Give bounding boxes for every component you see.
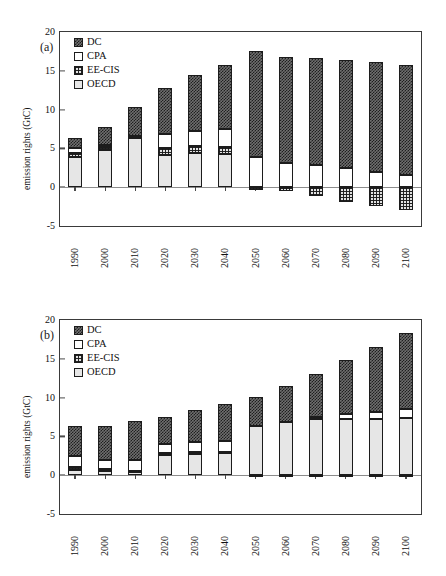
bar-2060	[279, 32, 293, 226]
bar-segment-ee-cis	[339, 475, 353, 477]
bar-segment-ee-cis	[188, 146, 202, 153]
bar-segment-ee-cis	[158, 148, 172, 155]
bar-segment-ee-cis	[249, 187, 263, 189]
bar-segment-ee-cis	[218, 452, 232, 454]
bar-segment-ee-cis	[98, 469, 112, 471]
y-axis-tick-label: 10	[45, 393, 55, 403]
bar-segment-oecd	[218, 453, 232, 475]
bar-segment-cpa	[249, 157, 263, 187]
bar-segment-dc	[399, 333, 413, 409]
bar-segment-dc	[98, 127, 112, 145]
bar-segment-cpa	[399, 175, 413, 187]
zero-baseline	[60, 475, 421, 476]
bar-segment-oecd	[188, 153, 202, 187]
bar-segment-ee-cis	[128, 471, 142, 473]
bar-segment-dc	[339, 60, 353, 168]
bar-segment-dc	[369, 347, 383, 411]
y-axis-tick-mark	[60, 397, 65, 398]
bar-segment-cpa	[399, 409, 413, 418]
bar-segment-ee-cis	[309, 475, 323, 477]
bar-segment-oecd	[98, 150, 112, 187]
bar-segment-dc	[218, 65, 232, 129]
bar-segment-dc	[399, 65, 413, 174]
bar-segment-dc	[339, 360, 353, 414]
bar-segment-oecd	[339, 419, 353, 476]
x-axis-tick-label: 2070	[311, 244, 321, 272]
bar-segment-dc	[98, 426, 112, 460]
x-axis-tick-label: 2080	[341, 244, 351, 272]
y-axis-tick-mark	[60, 70, 65, 71]
bar-segment-ee-cis	[369, 475, 383, 477]
y-axis-tick-mark	[60, 148, 65, 149]
bar-2010	[128, 320, 142, 514]
bar-segment-cpa	[128, 136, 142, 138]
bar-2000	[98, 32, 112, 226]
bar-segment-ee-cis	[68, 153, 82, 157]
panel-b-label: (b)	[40, 328, 54, 343]
bar-segment-ee-cis	[68, 467, 82, 470]
x-axis-tick-label: 2090	[371, 532, 381, 560]
x-axis-tick-label: 2060	[281, 244, 291, 272]
bar-2070	[309, 32, 323, 226]
bar-2090	[369, 32, 383, 226]
panel-a-y-axis-label: emission rights (GtC)	[22, 108, 32, 190]
x-axis-tick-label: 2010	[130, 532, 140, 560]
bar-segment-dc	[309, 374, 323, 417]
y-axis-tick-label: 15	[45, 354, 55, 364]
bar-segment-dc	[158, 88, 172, 134]
y-axis-tick-label: 0	[50, 182, 55, 192]
bar-segment-dc	[369, 62, 383, 171]
bar-segment-ee-cis	[98, 147, 112, 150]
bar-segment-dc	[128, 107, 142, 136]
y-axis-tick-label: 20	[45, 315, 55, 325]
panel-a: (a) emission rights (GtC) DCCPAEE-CISOEC…	[0, 0, 446, 288]
bar-segment-ee-cis	[158, 453, 172, 455]
bar-1990	[68, 32, 82, 226]
bar-segment-dc	[188, 410, 202, 442]
x-axis-tick-label: 2000	[100, 244, 110, 272]
panel-a-plot-area: DCCPAEE-CISOECD 20151050-519902000201020…	[59, 31, 422, 227]
bar-segment-oecd	[128, 138, 142, 187]
bar-segment-cpa	[339, 168, 353, 187]
bar-segment-oecd	[309, 419, 323, 475]
bar-2040	[218, 32, 232, 226]
x-axis-tick-label: 2020	[160, 532, 170, 560]
bar-2030	[188, 320, 202, 514]
bar-segment-cpa	[369, 412, 383, 419]
bar-segment-oecd	[158, 155, 172, 188]
bar-segment-cpa	[309, 417, 323, 419]
bar-segment-cpa	[68, 148, 82, 153]
y-axis-tick-label: 5	[50, 431, 55, 441]
bar-2070	[309, 320, 323, 514]
bar-segment-oecd	[369, 419, 383, 476]
bar-segment-ee-cis	[249, 475, 263, 477]
bar-2020	[158, 320, 172, 514]
x-axis-tick-label: 2090	[371, 244, 381, 272]
x-axis-tick-label: 1990	[70, 244, 80, 272]
bar-segment-cpa	[188, 131, 202, 147]
panel-a-label: (a)	[40, 40, 53, 55]
bar-segment-cpa	[369, 172, 383, 188]
panel-b-y-axis-label: emission rights (GtC)	[22, 396, 32, 478]
x-axis-tick-label: 2030	[190, 244, 200, 272]
bar-segment-ee-cis	[369, 187, 383, 206]
bar-segment-oecd	[158, 455, 172, 475]
bar-segment-dc	[309, 58, 323, 166]
bar-segment-dc	[279, 386, 293, 422]
bar-segment-ee-cis	[339, 187, 353, 202]
bar-segment-oecd	[68, 157, 82, 187]
bar-1990	[68, 320, 82, 514]
bar-segment-dc	[68, 138, 82, 148]
bar-segment-dc	[279, 57, 293, 163]
x-axis-tick-label: 2060	[281, 532, 291, 560]
bar-segment-cpa	[98, 145, 112, 147]
bar-segment-ee-cis	[218, 147, 232, 154]
bar-segment-cpa	[68, 456, 82, 467]
y-axis-tick-label: -5	[47, 221, 55, 231]
x-axis-tick-label: 2050	[251, 532, 261, 560]
bar-segment-cpa	[339, 414, 353, 419]
bar-segment-ee-cis	[399, 187, 413, 210]
bar-2050	[249, 32, 263, 226]
bar-segment-oecd	[188, 454, 202, 475]
bar-2090	[369, 320, 383, 514]
